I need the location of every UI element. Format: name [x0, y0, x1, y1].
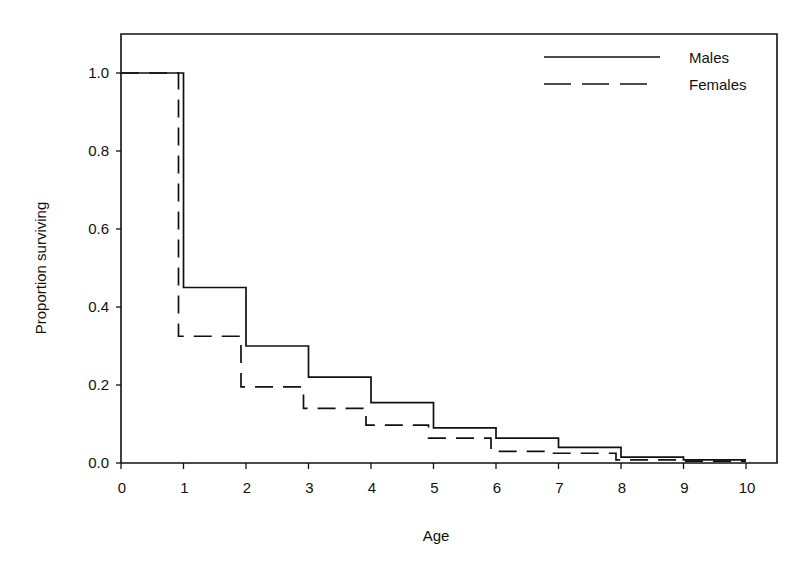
- y-tick-label: 1.0: [88, 64, 109, 81]
- series-males: [121, 73, 746, 460]
- x-axis-title: Age: [423, 527, 450, 544]
- x-tick-label: 2: [243, 479, 251, 496]
- legend-label-males: Males: [689, 49, 729, 66]
- x-tick-label: 1: [180, 479, 188, 496]
- x-tick-label: 10: [739, 479, 756, 496]
- y-tick-label: 0.4: [88, 298, 109, 315]
- plot-border: [121, 34, 777, 463]
- y-axis-title: Proportion surviving: [32, 202, 49, 335]
- survival-chart: 0.00.20.40.60.81.0 012345678910 MalesFem…: [0, 0, 803, 578]
- x-tick-label: 0: [118, 479, 126, 496]
- x-tick-label: 4: [368, 479, 376, 496]
- x-tick-label: 8: [618, 479, 626, 496]
- x-axis: 012345678910: [118, 463, 756, 496]
- plot-frame: [121, 34, 777, 463]
- x-tick-label: 3: [305, 479, 313, 496]
- x-tick-label: 9: [680, 479, 688, 496]
- x-tick-label: 7: [555, 479, 563, 496]
- x-tick-label: 6: [493, 479, 501, 496]
- x-tick-label: 5: [430, 479, 438, 496]
- legend: MalesFemales: [544, 49, 747, 93]
- series-lines: [121, 73, 746, 461]
- legend-label-females: Females: [689, 76, 747, 93]
- y-tick-label: 0.8: [88, 142, 109, 159]
- y-tick-label: 0.6: [88, 220, 109, 237]
- y-tick-label: 0.2: [88, 376, 109, 393]
- y-tick-label: 0.0: [88, 454, 109, 471]
- y-axis: 0.00.20.40.60.81.0: [88, 64, 121, 471]
